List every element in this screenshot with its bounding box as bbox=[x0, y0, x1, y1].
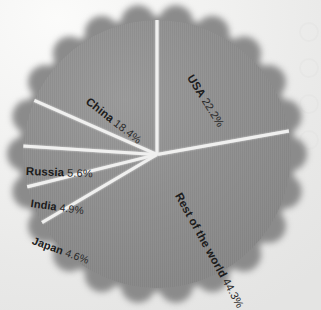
slice-label-india-pct: 4.9% bbox=[59, 201, 85, 216]
slice-label-russia-name: Russia bbox=[26, 165, 65, 178]
chart-page: USA22.2% China18.4% Russia5.6% India4.9%… bbox=[0, 0, 321, 310]
slice-label-india-name: India bbox=[30, 197, 58, 213]
slice-label-russia-pct: 5.6% bbox=[67, 166, 93, 179]
pie-separator-line bbox=[156, 20, 159, 154]
pie-chart: USA22.2% China18.4% Russia5.6% India4.9%… bbox=[9, 6, 305, 302]
slice-label-russia: Russia5.6% bbox=[26, 161, 93, 181]
